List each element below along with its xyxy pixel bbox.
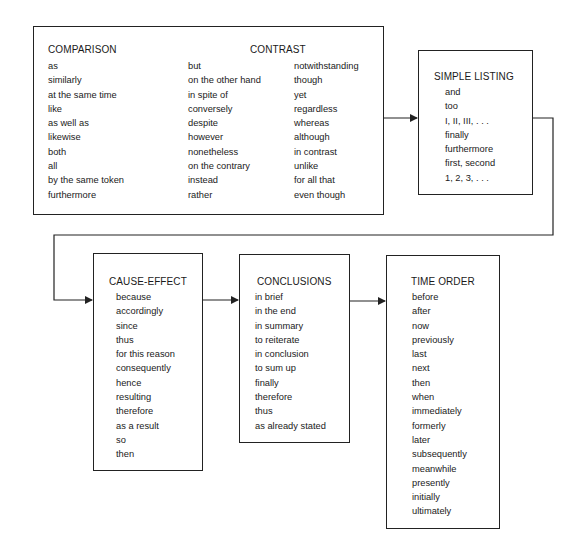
- cause-effect-item: since: [116, 319, 175, 333]
- time-order-list: before after now previously last next th…: [412, 290, 467, 519]
- simple-listing-item: furthermore: [445, 142, 495, 156]
- time-order-item: previously: [412, 333, 467, 347]
- contrast-item: instead: [188, 173, 261, 187]
- contrast-item: rather: [188, 188, 261, 202]
- cause-effect-item: consequently: [116, 361, 175, 375]
- contrast-item: on the contrary: [188, 159, 261, 173]
- comparison-item: likewise: [48, 130, 124, 144]
- conclusions-item: finally: [255, 376, 326, 390]
- cause-effect-heading: CAUSE-EFFECT: [109, 276, 187, 287]
- time-order-item: after: [412, 304, 467, 318]
- cause-effect-item: resulting: [116, 390, 175, 404]
- contrast-item: nonetheless: [188, 145, 261, 159]
- conclusions-item: in brief: [255, 290, 326, 304]
- cause-effect-box: CAUSE-EFFECT because accordingly since t…: [93, 253, 203, 471]
- contrast-item: notwithstanding: [294, 59, 359, 73]
- contrast-item: despite: [188, 116, 261, 130]
- contrast-item: whereas: [294, 116, 359, 130]
- contrast-item: however: [188, 130, 261, 144]
- time-order-item: presently: [412, 476, 467, 490]
- cause-effect-item: hence: [116, 376, 175, 390]
- conclusions-item: in summary: [255, 319, 326, 333]
- time-order-item: formerly: [412, 419, 467, 433]
- simple-listing-item: I, II, III, . . .: [445, 114, 495, 128]
- comparison-item: as well as: [48, 116, 124, 130]
- time-order-item: initially: [412, 490, 467, 504]
- cause-effect-item: because: [116, 290, 175, 304]
- simple-listing-heading: SIMPLE LISTING: [434, 71, 514, 82]
- comparison-item: like: [48, 102, 124, 116]
- contrast-heading: CONTRAST: [250, 44, 306, 55]
- conclusions-item: in the end: [255, 304, 326, 318]
- conclusions-item: as already stated: [255, 419, 326, 433]
- contrast-item: regardless: [294, 102, 359, 116]
- cause-effect-item: then: [116, 447, 175, 461]
- cause-effect-item: thus: [116, 333, 175, 347]
- time-order-item: immediately: [412, 404, 467, 418]
- comparison-item: both: [48, 145, 124, 159]
- contrast-item: conversely: [188, 102, 261, 116]
- comparison-item: by the same token: [48, 173, 124, 187]
- time-order-item: now: [412, 319, 467, 333]
- simple-listing-box: SIMPLE LISTING and too I, II, III, . . .…: [418, 50, 533, 195]
- simple-listing-item: 1, 2, 3, . . .: [445, 171, 495, 185]
- contrast-item: in contrast: [294, 145, 359, 159]
- contrast-list-2: notwithstanding though yet regardless wh…: [294, 59, 359, 202]
- time-order-item: meanwhile: [412, 462, 467, 476]
- contrast-item: even though: [294, 188, 359, 202]
- comparison-contrast-box: COMPARISON as similarly at the same time…: [33, 26, 384, 215]
- conclusions-box: CONCLUSIONS in brief in the end in summa…: [239, 254, 350, 443]
- comparison-item: furthermore: [48, 188, 124, 202]
- conclusions-item: to sum up: [255, 361, 326, 375]
- contrast-item: yet: [294, 88, 359, 102]
- cause-effect-item: accordingly: [116, 304, 175, 318]
- comparison-list: as similarly at the same time like as we…: [48, 59, 124, 202]
- simple-listing-item: and: [445, 85, 495, 99]
- time-order-box: TIME ORDER before after now previously l…: [386, 255, 500, 529]
- time-order-item: last: [412, 347, 467, 361]
- time-order-item: next: [412, 361, 467, 375]
- comparison-item: all: [48, 159, 124, 173]
- comparison-item: similarly: [48, 73, 124, 87]
- contrast-item: though: [294, 73, 359, 87]
- comparison-heading: COMPARISON: [48, 44, 117, 55]
- contrast-list-1: but on the other hand in spite of conver…: [188, 59, 261, 202]
- simple-listing-item: first, second: [445, 156, 495, 170]
- contrast-item: in spite of: [188, 88, 261, 102]
- conclusions-item: therefore: [255, 390, 326, 404]
- time-order-item: then: [412, 376, 467, 390]
- contrast-item: unlike: [294, 159, 359, 173]
- conclusions-list: in brief in the end in summary to reiter…: [255, 290, 326, 433]
- time-order-item: later: [412, 433, 467, 447]
- cause-effect-item: for this reason: [116, 347, 175, 361]
- time-order-item: subsequently: [412, 447, 467, 461]
- contrast-item: although: [294, 130, 359, 144]
- time-order-item: when: [412, 390, 467, 404]
- conclusions-heading: CONCLUSIONS: [257, 276, 331, 287]
- cause-effect-item: as a result: [116, 419, 175, 433]
- simple-listing-item: too: [445, 99, 495, 113]
- contrast-item: but: [188, 59, 261, 73]
- conclusions-item: in conclusion: [255, 347, 326, 361]
- conclusions-item: thus: [255, 404, 326, 418]
- simple-listing-item: finally: [445, 128, 495, 142]
- comparison-item: as: [48, 59, 124, 73]
- time-order-heading: TIME ORDER: [411, 276, 475, 287]
- contrast-item: on the other hand: [188, 73, 261, 87]
- conclusions-item: to reiterate: [255, 333, 326, 347]
- cause-effect-item: so: [116, 433, 175, 447]
- cause-effect-item: therefore: [116, 404, 175, 418]
- time-order-item: before: [412, 290, 467, 304]
- cause-effect-list: because accordingly since thus for this …: [116, 290, 175, 462]
- simple-listing-list: and too I, II, III, . . . finally furthe…: [445, 85, 495, 185]
- time-order-item: ultimately: [412, 504, 467, 518]
- comparison-item: at the same time: [48, 88, 124, 102]
- contrast-item: for all that: [294, 173, 359, 187]
